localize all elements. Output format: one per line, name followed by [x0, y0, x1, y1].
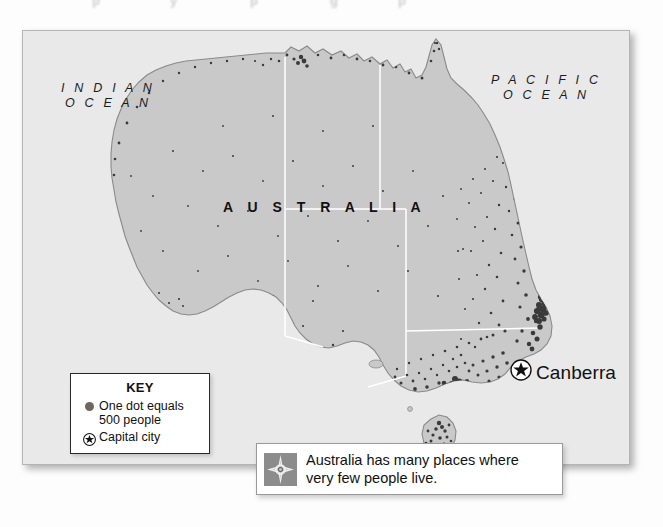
gray-dot-icon: [79, 400, 99, 411]
legend-item-capital-label: Capital city: [99, 431, 160, 445]
legend-item-dot-label: One dot equals 500 people: [99, 400, 184, 427]
capital-city-star-icon: [510, 359, 532, 381]
ocean-label-indian: I N D I A N O C E A N: [61, 81, 155, 111]
capital-city-label: Canberra: [536, 362, 616, 384]
caption-box: Australia has many places where very few…: [256, 443, 563, 495]
ocean-label-pacific: P A C I F I C O C E A N: [491, 73, 601, 103]
map-legend-key: KEY One dot equals 500 people Capital ci…: [70, 373, 210, 454]
compass-rose-icon: [264, 453, 297, 486]
legend-title: KEY: [79, 380, 201, 395]
caption-text: Australia has many places where very few…: [306, 451, 519, 487]
map-frame: I N D I A N O C E A N P A C I F I C O C …: [22, 30, 630, 465]
legend-item-dot: One dot equals 500 people: [79, 400, 201, 427]
star-in-circle-icon: [79, 431, 99, 446]
cropped-text-remnant: p y p g p: [0, 0, 663, 14]
legend-item-capital: Capital city: [79, 431, 201, 446]
country-label-australia: A U S T R A L I A: [223, 199, 426, 215]
